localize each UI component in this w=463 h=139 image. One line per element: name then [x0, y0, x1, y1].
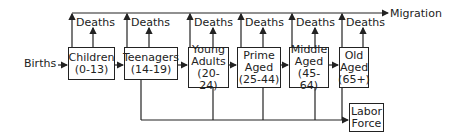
deaths-label-children: Deaths	[76, 17, 115, 29]
stage-label-line: Aged	[295, 56, 323, 68]
stage-label-line: (25-44)	[239, 74, 280, 86]
stage-middle-aged: Middle Aged (45-64)	[289, 47, 329, 88]
deaths-label-young-adults: Deaths	[194, 17, 233, 29]
stage-label-line: Aged	[245, 62, 273, 74]
stage-label-line: (20-24)	[189, 68, 228, 92]
deaths-label-middle-aged: Deaths	[296, 17, 335, 29]
stage-label-line: Young	[192, 44, 225, 56]
migration-label: Migration	[390, 8, 442, 20]
stage-young-adults: Young Adults (20-24)	[188, 47, 229, 88]
stage-label-line: (65+)	[338, 74, 370, 86]
stage-label-line: (45-64)	[290, 68, 328, 92]
deaths-label-prime-aged: Deaths	[245, 17, 284, 29]
labor-force-box: Labor Force	[349, 103, 384, 132]
stage-label-line: Teenagers	[123, 52, 179, 64]
labor-force-label-line: Labor	[351, 106, 382, 118]
stage-prime-aged: Prime Aged (25-44)	[237, 47, 281, 88]
stage-label-line: (14-19)	[131, 64, 172, 76]
deaths-label-teenagers: Deaths	[131, 17, 170, 29]
stage-label-line: Adults	[191, 56, 225, 68]
stage-old-aged: Old Aged (65+)	[339, 47, 369, 88]
stage-label-line: Prime	[243, 50, 275, 62]
births-label: Births	[24, 58, 56, 70]
stage-label-line: Aged	[340, 62, 368, 74]
stage-children: Children (0-13)	[68, 47, 115, 80]
stage-label-line: Middle	[291, 44, 327, 56]
stage-label-line: Old	[345, 50, 364, 62]
stage-label-line: (0-13)	[75, 64, 109, 76]
stage-label-line: Children	[69, 52, 115, 64]
deaths-label-old-aged: Deaths	[346, 17, 385, 29]
stage-teenagers: Teenagers (14-19)	[124, 47, 178, 80]
labor-force-label-line: Force	[352, 118, 382, 130]
